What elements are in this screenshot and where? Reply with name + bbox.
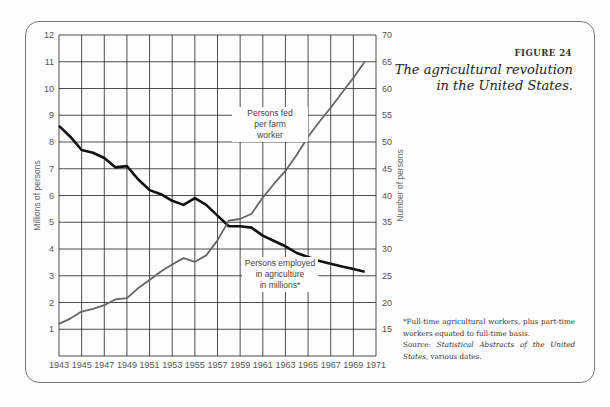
y-tick-label-right: 55 <box>382 110 392 120</box>
annotation-employed: in millions* <box>260 280 301 290</box>
y-tick-label-left: 10 <box>44 84 54 94</box>
chart-lines <box>59 62 365 324</box>
x-tick-label: 1969 <box>343 360 363 370</box>
y-axis-title-right: Number of persons <box>395 149 405 221</box>
figure-title-line-2: in the United States. <box>373 78 573 94</box>
y-tick-label-left: 12 <box>44 30 54 40</box>
x-tick-label: 1967 <box>321 360 341 370</box>
y-tick-label-left: 3 <box>49 271 54 281</box>
y-tick-label-left: 6 <box>49 191 54 201</box>
chart-annotations: Persons fedper farmworkerPersons employe… <box>232 107 318 292</box>
x-tick-label: 1971 <box>366 360 386 370</box>
figure-title: The agricultural revolution in the Unite… <box>373 62 573 94</box>
y-tick-label-left: 8 <box>49 137 54 147</box>
annotation-fed: Persons fed <box>247 108 293 118</box>
x-tick-label: 1959 <box>230 360 250 370</box>
y-tick-label-left: 4 <box>49 244 54 254</box>
annotation-fed: per farm <box>254 119 286 129</box>
footnote: *Full-time agricultural workers, plus pa… <box>403 316 575 362</box>
axis-labels: 1943194519471949195119531955195719591961… <box>32 30 405 370</box>
chart-grid <box>59 35 376 356</box>
y-tick-label-right: 35 <box>382 217 392 227</box>
y-tick-label-right: 50 <box>382 137 392 147</box>
y-tick-label-left: 7 <box>49 164 54 174</box>
annotation-employed: in agriculture <box>256 269 305 279</box>
source-suffix: , various dates. <box>426 352 482 361</box>
annotation-employed: Persons employed <box>245 258 316 268</box>
source-prefix: Source: <box>403 340 437 349</box>
x-tick-label: 1945 <box>72 360 92 370</box>
x-tick-label: 1965 <box>298 360 318 370</box>
x-tick-label: 1955 <box>185 360 205 370</box>
x-tick-label: 1957 <box>207 360 227 370</box>
annotation-fed: worker <box>256 130 283 140</box>
x-tick-label: 1953 <box>162 360 182 370</box>
y-tick-label-right: 20 <box>382 298 392 308</box>
x-tick-label: 1947 <box>94 360 114 370</box>
x-tick-label: 1963 <box>275 360 295 370</box>
figure-number: FIGURE 24 <box>514 48 572 58</box>
y-tick-label-left: 9 <box>49 110 54 120</box>
y-tick-label-right: 40 <box>382 191 392 201</box>
y-tick-label-left: 2 <box>49 298 54 308</box>
x-tick-label: 1943 <box>49 360 69 370</box>
y-tick-label-right: 45 <box>382 164 392 174</box>
x-tick-label: 1961 <box>253 360 273 370</box>
y-tick-label-right: 70 <box>382 30 392 40</box>
fed-per-worker-line <box>59 62 365 324</box>
figure-title-line-1: The agricultural revolution <box>373 62 573 78</box>
y-axis-title-left: Millions of persons <box>32 160 42 230</box>
x-tick-label: 1949 <box>117 360 137 370</box>
y-tick-label-right: 15 <box>382 324 392 334</box>
x-tick-label: 1951 <box>140 360 160 370</box>
footnote-note: *Full-time agricultural workers, plus pa… <box>403 317 575 338</box>
y-tick-label-right: 30 <box>382 244 392 254</box>
y-tick-label-left: 5 <box>49 217 54 227</box>
y-tick-label-right: 25 <box>382 271 392 281</box>
y-tick-label-left: 11 <box>45 57 54 67</box>
employed-line <box>59 126 365 272</box>
y-tick-label-left: 1 <box>49 324 54 334</box>
